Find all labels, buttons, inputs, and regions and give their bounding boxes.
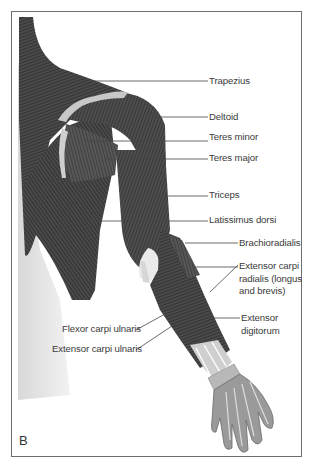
label-trapezius: Trapezius xyxy=(209,75,250,88)
label-latissimus-dorsi: Latissimus dorsi xyxy=(209,214,276,227)
label-brachioradialis: Brachioradialis xyxy=(239,237,300,250)
label-teres-major: Teres major xyxy=(209,152,258,165)
arm-muscle-illustration xyxy=(0,0,311,468)
label-extensor-carpi-radialis: Extensor carpi radialis (longus and brev… xyxy=(239,260,302,298)
label-triceps: Triceps xyxy=(209,189,239,202)
label-teres-minor: Teres minor xyxy=(209,131,258,144)
label-extensor-digitorum: Extensor digitorum xyxy=(241,312,280,337)
label-deltoid: Deltoid xyxy=(209,111,238,124)
panel-letter: B xyxy=(19,433,28,448)
label-extensor-carpi-ulnaris: Extensor carpi ulnaris xyxy=(52,343,142,356)
label-flexor-carpi-ulnaris: Flexor carpi ulnaris xyxy=(62,323,141,336)
